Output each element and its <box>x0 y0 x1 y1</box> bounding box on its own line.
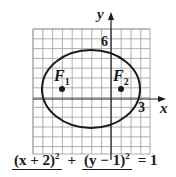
tick-label-6: 6 <box>101 35 108 49</box>
focus-1-label: F1 <box>54 68 70 87</box>
ellipse-curve <box>42 50 140 128</box>
term-x: (x + 2) <box>14 152 55 168</box>
focus-2-subscript: 2 <box>124 76 129 87</box>
term-y: (y − 1) <box>84 152 125 168</box>
ellipse-equation: (x + 2)2+(y − 1)2= 1 <box>12 151 163 170</box>
focus-2-letter: F <box>113 67 124 84</box>
fraction-1-numerator: (x + 2)2 <box>12 151 62 170</box>
focus-1-letter: F <box>54 67 65 84</box>
y-axis-label: y <box>97 7 104 22</box>
x-axis-label: x <box>160 101 168 116</box>
focus-2-label: F2 <box>113 68 129 87</box>
exponent-1: 2 <box>55 151 60 161</box>
exponent-2: 2 <box>125 151 130 161</box>
tick-label-3: 3 <box>138 101 145 115</box>
fraction-2-numerator: (y − 1)2 <box>82 151 132 170</box>
plus-sign: + <box>68 152 77 169</box>
grid <box>33 29 150 154</box>
equals-one: = 1 <box>138 152 158 169</box>
focus-1-subscript: 1 <box>65 76 70 87</box>
y-axis-arrow-icon <box>108 12 114 20</box>
